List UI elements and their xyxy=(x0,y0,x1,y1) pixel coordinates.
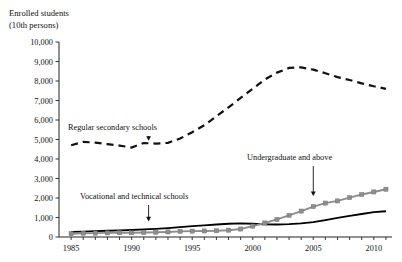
y-tick-label: 0 xyxy=(49,233,53,242)
y-tick-label: 1,000 xyxy=(34,214,53,223)
series-layer xyxy=(69,67,388,235)
series-marker xyxy=(323,201,327,205)
series-marker xyxy=(287,213,291,217)
series-line-dashed xyxy=(71,67,386,147)
series-marker xyxy=(81,231,85,235)
y-tick-label: 4,000 xyxy=(34,155,53,164)
series-marker xyxy=(190,229,194,233)
x-tick-label: 2000 xyxy=(244,244,261,253)
y-tick-label: 5,000 xyxy=(34,136,53,145)
x-tick-label: 1985 xyxy=(63,244,80,253)
series-marker xyxy=(226,228,230,232)
annotation-arrow-head xyxy=(146,136,151,141)
y-tick-label: 10,000 xyxy=(30,38,53,47)
series-marker xyxy=(69,232,73,236)
x-tick-label: 2005 xyxy=(305,244,322,253)
series-marker xyxy=(93,231,97,235)
series-marker xyxy=(202,229,206,233)
series-marker xyxy=(251,224,255,228)
series-marker xyxy=(384,187,388,191)
x-tick-label: 1990 xyxy=(123,244,140,253)
series-marker xyxy=(372,190,376,194)
series-marker xyxy=(154,230,158,234)
annotation-arrow-head xyxy=(146,217,151,222)
line-chart-svg: Enrolled students (10th persons) 01,0002… xyxy=(0,0,402,262)
y-tick-label: 3,000 xyxy=(34,175,53,184)
series-marker xyxy=(105,231,109,235)
x-axis: 198519901995200020052010 xyxy=(59,237,392,253)
series-marker xyxy=(214,229,218,233)
series-marker xyxy=(335,199,339,203)
series-marker xyxy=(275,217,279,221)
series-marker xyxy=(166,230,170,234)
y-tick-label: 6,000 xyxy=(34,116,53,125)
series-marker xyxy=(299,209,303,213)
series-marker xyxy=(130,231,134,235)
series-marker xyxy=(360,192,364,196)
y-tick-label: 7,000 xyxy=(34,97,53,106)
chart-container: Enrolled students (10th persons) 01,0002… xyxy=(0,0,402,262)
annotation-label: Regular secondary schools xyxy=(68,123,157,132)
chart-title: Enrolled students xyxy=(9,8,70,18)
y-axis: 01,0002,0003,0004,0005,0006,0007,0008,00… xyxy=(30,38,59,242)
x-tick-label: 2010 xyxy=(366,244,383,253)
annotation-arrow-head xyxy=(311,191,316,196)
series-marker xyxy=(348,196,352,200)
y-tick-label: 9,000 xyxy=(34,58,53,67)
series-marker xyxy=(263,221,267,225)
chart-title-group: Enrolled students (10th persons) xyxy=(9,8,70,30)
series-marker xyxy=(117,231,121,235)
series-marker xyxy=(142,230,146,234)
annotation-label: Vocational and technical schools xyxy=(80,192,188,201)
annotation-label: Undergraduate and above xyxy=(247,153,332,162)
series-marker xyxy=(178,229,182,233)
series-marker xyxy=(311,204,315,208)
series-marker xyxy=(239,227,243,231)
annotation-layer: Regular secondary schoolsVocational and … xyxy=(68,123,332,221)
y-tick-label: 2,000 xyxy=(34,194,53,203)
x-tick-label: 1995 xyxy=(184,244,201,253)
y-tick-label: 8,000 xyxy=(34,77,53,86)
chart-subtitle: (10th persons) xyxy=(9,20,59,30)
